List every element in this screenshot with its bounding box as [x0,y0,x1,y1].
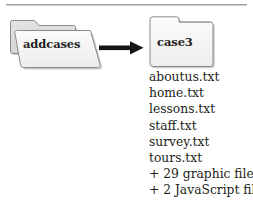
list-item: staff.txt [149,118,253,134]
source-folder-label: addcases [23,37,80,51]
diagram-canvas: addcases case3 aboutus.txt home.txt less… [0,0,253,210]
target-folder-label: case3 [157,35,193,49]
folder-contents-list: aboutus.txt home.txt lessons.txt staff.t… [149,69,253,199]
list-item: aboutus.txt [149,69,253,85]
list-item: + 2 JavaScript files [149,182,253,198]
right-arrow-icon [99,41,144,54]
list-item: survey.txt [149,134,253,150]
list-item: lessons.txt [149,101,253,117]
list-item: + 29 graphic files [149,166,253,182]
list-item: home.txt [149,85,253,101]
list-item: tours.txt [149,150,253,166]
